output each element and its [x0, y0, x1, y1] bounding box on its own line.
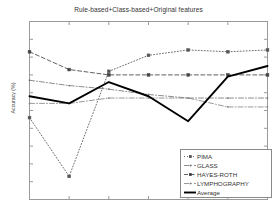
legend: PIMAGLASSHAYES-ROTHLYMPHOGRAPHYAverage [180, 149, 272, 198]
legend-item-label: LYMPHOGRAPHY [197, 179, 249, 188]
legend-item-average[interactable]: Average [183, 188, 271, 197]
legend-item-label: Average [197, 188, 220, 197]
legend-swatch-icon [183, 188, 197, 197]
legend-item-glass[interactable]: GLASS [183, 161, 271, 170]
legend-item-pima[interactable]: PIMA [183, 152, 271, 161]
legend-item-label: HAYES-ROTH [197, 170, 237, 179]
legend-item-label: GLASS [197, 161, 218, 170]
legend-swatch-icon [183, 152, 197, 161]
legend-swatch-icon [183, 170, 197, 179]
legend-item-label: PIMA [197, 152, 212, 161]
legend-item-lymphography[interactable]: LYMPHOGRAPHY [183, 179, 271, 188]
legend-item-hayes-roth[interactable]: HAYES-ROTH [183, 170, 271, 179]
legend-swatch-icon [183, 161, 197, 170]
legend-swatch-icon [183, 179, 197, 188]
chart-figure: Rule-based+Class-based+Original features… [0, 0, 277, 219]
